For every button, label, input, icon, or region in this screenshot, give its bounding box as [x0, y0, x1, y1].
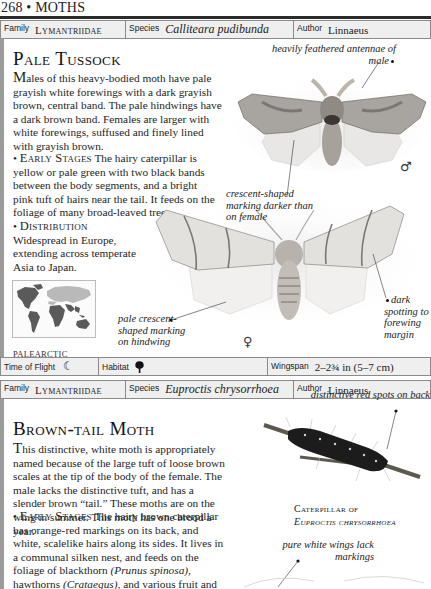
caterpillar-caption: Caterpillar of Euproctis chrysorrhoea	[294, 502, 396, 528]
caption-line2: Euproctis chrysorrhoea	[294, 515, 396, 528]
latin-name: (Crataegus),	[63, 578, 120, 589]
distribution-heading: Distribution	[20, 219, 88, 233]
distribution-map	[12, 280, 96, 338]
habitat-label: Habitat	[102, 362, 129, 372]
description-text: ales of this heavy-bodied moth have pale…	[13, 72, 222, 152]
family-label: Family	[4, 23, 29, 33]
species-value: Calliteara pudibunda	[165, 22, 269, 37]
bullet: •	[13, 152, 17, 164]
tree-icon	[135, 361, 144, 373]
leader-line	[370, 252, 390, 302]
moon-icon: ☾	[63, 359, 74, 374]
dropcap: M	[13, 69, 26, 85]
dropcap: T	[13, 440, 22, 456]
family-cell: Family Lymantriidae	[1, 381, 126, 398]
species-cell: Species Calliteara pudibunda	[126, 21, 294, 38]
species1-stats-row: Time of Flight ☾ Habitat Wingspan 2–2¾ i…	[0, 357, 431, 376]
male-moth-image	[232, 62, 431, 174]
species2-section: Brown-tail Moth This distinctive, white …	[0, 399, 431, 589]
female-symbol: ♀	[243, 334, 253, 349]
species1-title: Pale Tussock	[13, 48, 121, 70]
author-label: Author	[297, 23, 322, 33]
leader-line	[344, 60, 384, 90]
species2-early-stages: • Early Stages The hairy brown caterpill…	[13, 510, 225, 589]
family-value: Lymantriidae	[35, 24, 102, 36]
species-value: Euproctis chrysorrhoea	[165, 382, 279, 397]
header-rule	[0, 16, 431, 19]
separator: •	[26, 0, 31, 15]
annotation-crescent-male: crescent-shaped marking darker than on f…	[226, 188, 321, 223]
author-value: Linnaeus	[328, 24, 368, 36]
species-label: Species	[129, 383, 159, 393]
family-value: Lymantriidae	[35, 384, 102, 396]
leader-line	[168, 300, 228, 324]
distribution-text: Widespread in Europe, extending across t…	[13, 234, 136, 273]
species1-description: Males of this heavy-bodied moth have pal…	[13, 71, 223, 154]
species1-info-row: Family Lymantriidae Species Calliteara p…	[0, 20, 431, 39]
section-name: MOTHS	[35, 0, 85, 15]
leader-line	[384, 409, 404, 451]
pointer-dot	[391, 60, 394, 63]
family-cell: Family Lymantriidae	[1, 21, 126, 38]
running-head: 268 • MOTHS	[1, 0, 85, 16]
flight-cell: Time of Flight ☾	[1, 358, 99, 375]
author-cell: Author Linnaeus	[294, 21, 430, 38]
early-stages-heading: Early Stages	[20, 151, 92, 165]
family-label: Family	[4, 383, 29, 393]
early-stages-heading: Early Stages	[20, 509, 92, 523]
page-header: 268 • MOTHS	[0, 0, 431, 18]
species-cell: Species Euproctis chrysorrhoea	[126, 381, 294, 398]
species-label: Species	[129, 23, 159, 33]
bullet: •	[13, 220, 17, 232]
habitat-cell: Habitat	[99, 358, 268, 375]
species2-title: Brown-tail Moth	[13, 418, 155, 440]
species1-section: Pale Tussock Males of this heavy-bodied …	[0, 38, 431, 357]
caption-line1: Caterpillar of	[294, 502, 396, 515]
annotation-red-spots: distinctive red spots on back	[304, 389, 430, 401]
leader-line	[284, 138, 304, 198]
white-moth-wings	[234, 567, 430, 589]
early-stages-text: hawthorns	[13, 578, 63, 589]
wingspan-value: 2–2¾ in (5–7 cm)	[315, 361, 394, 373]
species1-distribution: • DistributionWidespread in Europe, exte…	[13, 220, 143, 274]
bullet: •	[13, 510, 17, 522]
wingspan-label: Wingspan	[271, 361, 309, 371]
annotation-spotting: dark spotting to forewing margin	[384, 294, 431, 340]
flight-label: Time of Flight	[4, 362, 55, 372]
page-number: 268	[1, 0, 23, 15]
male-symbol: ♂	[400, 159, 412, 174]
caterpillar-image	[260, 417, 430, 487]
world-map-icon	[13, 281, 95, 337]
wingspan-cell: Wingspan 2–2¾ in (5–7 cm)	[268, 358, 430, 375]
latin-name: (Prunus spinosa),	[111, 564, 191, 576]
